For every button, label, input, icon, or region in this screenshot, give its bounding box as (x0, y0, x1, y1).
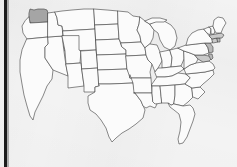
state-florida[interactable] (168, 103, 195, 144)
us-states-map[interactable] (0, 0, 237, 167)
map-states-group (20, 9, 226, 144)
state-south-carolina[interactable] (192, 87, 205, 99)
state-arizona[interactable] (66, 63, 84, 88)
state-south-dakota[interactable] (95, 24, 119, 40)
state-kansas[interactable] (97, 54, 127, 70)
state-maine[interactable] (213, 17, 226, 33)
state-washington[interactable] (29, 9, 48, 23)
state-ohio[interactable] (170, 48, 184, 67)
state-colorado[interactable] (81, 50, 98, 69)
state-minnesota[interactable] (118, 11, 141, 43)
state-indiana[interactable] (160, 50, 172, 68)
screenshot-root (0, 0, 237, 167)
state-north-dakota[interactable] (94, 9, 118, 25)
state-alabama[interactable] (160, 85, 175, 105)
